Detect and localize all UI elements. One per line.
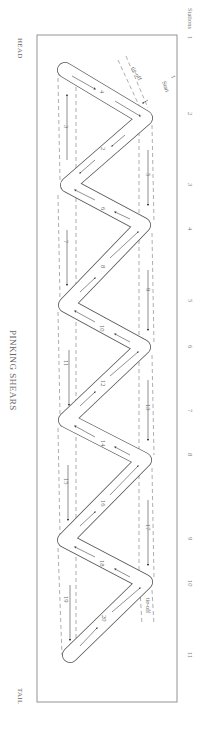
segment-number: 11 xyxy=(63,360,70,366)
start-number: 1 xyxy=(170,74,177,79)
station-number: 9 xyxy=(187,537,194,540)
station-number: 3 xyxy=(187,183,194,186)
station-number: 4 xyxy=(187,227,194,231)
tail-label: TAIL xyxy=(16,688,24,705)
head-label: HEAD xyxy=(16,38,24,59)
segment-number: 9 xyxy=(145,288,152,291)
pinking-shears-diagram: HEAD TAIL PINKING SHEARS Stations 123456… xyxy=(0,0,211,735)
station-number: 6 xyxy=(187,345,194,349)
segment-number: 13 xyxy=(145,404,152,411)
start-label: Start xyxy=(161,80,171,93)
station-number: 8 xyxy=(187,453,194,456)
stations-label: Stations xyxy=(187,8,194,29)
station-labels: 1234567891011 xyxy=(187,36,194,658)
tie-off-bottom-label: tie-off xyxy=(145,598,151,613)
segment-number: 12 xyxy=(100,380,107,387)
station-number: 1 xyxy=(187,36,194,39)
segment-number: 2 xyxy=(100,147,107,150)
segment-number: 7 xyxy=(63,240,70,244)
stitch-band xyxy=(65,70,145,655)
tie-off-top-label: tie-off xyxy=(130,66,143,82)
station-number: 2 xyxy=(187,112,194,115)
segment-number: 16 xyxy=(100,500,107,507)
segment-number: 3 xyxy=(63,125,70,128)
segment-number: 10 xyxy=(99,325,106,332)
station-number: 7 xyxy=(187,409,194,413)
segment-number: 14 xyxy=(100,440,107,447)
segment-number: 17 xyxy=(145,524,152,531)
station-number: 5 xyxy=(187,299,194,302)
diagram-title: PINKING SHEARS xyxy=(8,330,18,411)
segment-number: 8 xyxy=(100,265,107,268)
segment-number: 20 xyxy=(101,615,108,622)
segment-number: 18 xyxy=(99,560,106,567)
station-number: 10 xyxy=(187,580,194,587)
station-number: 11 xyxy=(187,652,194,658)
segment-number: 15 xyxy=(63,478,70,485)
segment-number: 19 xyxy=(63,596,70,603)
segment-number: 5 xyxy=(145,173,152,176)
diagram-frame xyxy=(37,35,177,702)
